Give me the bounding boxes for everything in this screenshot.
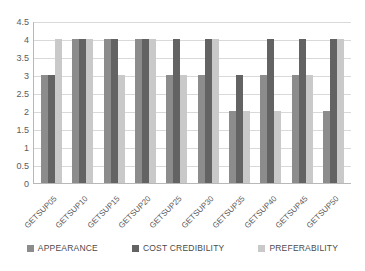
bar bbox=[337, 39, 344, 183]
bar bbox=[55, 39, 62, 183]
chart-legend: APPEARANCECOST CREDIBILITYPREFERABILITY bbox=[0, 243, 365, 253]
bar-group bbox=[130, 22, 161, 183]
bar bbox=[72, 39, 79, 183]
bar-groups bbox=[34, 22, 351, 183]
legend-item-label: APPEARANCE bbox=[38, 243, 98, 253]
y-axis-tick-label: 1 bbox=[0, 144, 29, 153]
bar bbox=[205, 39, 212, 183]
bar bbox=[41, 75, 48, 183]
x-axis-tick-label: GETSUP05 bbox=[22, 194, 58, 230]
bar bbox=[166, 75, 173, 183]
legend-swatch-icon bbox=[258, 245, 265, 252]
bar bbox=[267, 39, 274, 183]
x-axis-tick: GETSUP40 bbox=[255, 185, 286, 237]
bar bbox=[236, 75, 243, 183]
x-axis-tick: GETSUP05 bbox=[35, 185, 66, 237]
legend-swatch-icon bbox=[27, 245, 34, 252]
bar bbox=[149, 39, 156, 183]
y-axis-tick-label: 0 bbox=[0, 180, 29, 189]
bar bbox=[330, 39, 337, 183]
x-axis-tick: GETSUP45 bbox=[286, 185, 317, 237]
bar bbox=[142, 39, 149, 183]
y-axis-tick-label: 4 bbox=[0, 36, 29, 45]
legend-item[interactable]: APPEARANCE bbox=[27, 243, 98, 253]
legend-item[interactable]: PREFERABILITY bbox=[258, 243, 338, 253]
x-axis-tick: GETSUP30 bbox=[192, 185, 223, 237]
y-axis-tick-label: 1.5 bbox=[0, 126, 29, 135]
bar bbox=[260, 75, 267, 183]
bar-group bbox=[255, 22, 286, 183]
bar-group bbox=[318, 22, 349, 183]
bar bbox=[135, 39, 142, 183]
bar bbox=[180, 75, 187, 183]
legend-swatch-icon bbox=[132, 245, 139, 252]
bar bbox=[198, 75, 205, 183]
bar-group bbox=[286, 22, 317, 183]
y-axis-tick-label: 2.5 bbox=[0, 90, 29, 99]
bar-group bbox=[99, 22, 130, 183]
bar bbox=[292, 75, 299, 183]
bar bbox=[104, 39, 111, 183]
bar bbox=[86, 39, 93, 183]
x-axis: GETSUP05GETSUP10GETSUP15GETSUP20GETSUP25… bbox=[33, 185, 351, 237]
y-axis-tick-label: 3 bbox=[0, 72, 29, 81]
bar bbox=[323, 111, 330, 183]
bar bbox=[212, 39, 219, 183]
bar-group bbox=[192, 22, 223, 183]
x-axis-tick: GETSUP35 bbox=[223, 185, 254, 237]
y-axis-tick-label: 0.5 bbox=[0, 162, 29, 171]
bar bbox=[306, 75, 313, 183]
plot-area bbox=[33, 22, 351, 184]
legend-item-label: PREFERABILITY bbox=[269, 243, 338, 253]
legend-item-label: COST CREDIBILITY bbox=[143, 243, 224, 253]
x-axis-tick: GETSUP15 bbox=[98, 185, 129, 237]
x-axis-tick: GETSUP50 bbox=[318, 185, 349, 237]
y-axis: 00.511.522.533.544.5 bbox=[0, 22, 29, 184]
legend-item[interactable]: COST CREDIBILITY bbox=[132, 243, 224, 253]
bar-group bbox=[67, 22, 98, 183]
bar bbox=[274, 111, 281, 183]
x-axis-tick: GETSUP25 bbox=[161, 185, 192, 237]
bar bbox=[299, 39, 306, 183]
y-axis-tick-label: 3.5 bbox=[0, 54, 29, 63]
bar-chart: 00.511.522.533.544.5 GETSUP05GETSUP10GET… bbox=[0, 0, 365, 271]
bar-group bbox=[36, 22, 67, 183]
bar bbox=[48, 75, 55, 183]
y-axis-tick-label: 4.5 bbox=[0, 18, 29, 27]
x-axis-tick: GETSUP10 bbox=[66, 185, 97, 237]
bar bbox=[173, 39, 180, 183]
y-axis-tick-label: 2 bbox=[0, 108, 29, 117]
bar bbox=[118, 75, 125, 183]
bar bbox=[229, 111, 236, 183]
x-axis-tick: GETSUP20 bbox=[129, 185, 160, 237]
bar bbox=[111, 39, 118, 183]
bar bbox=[243, 111, 250, 183]
bar bbox=[79, 39, 86, 183]
bar-group bbox=[161, 22, 192, 183]
bar-group bbox=[224, 22, 255, 183]
